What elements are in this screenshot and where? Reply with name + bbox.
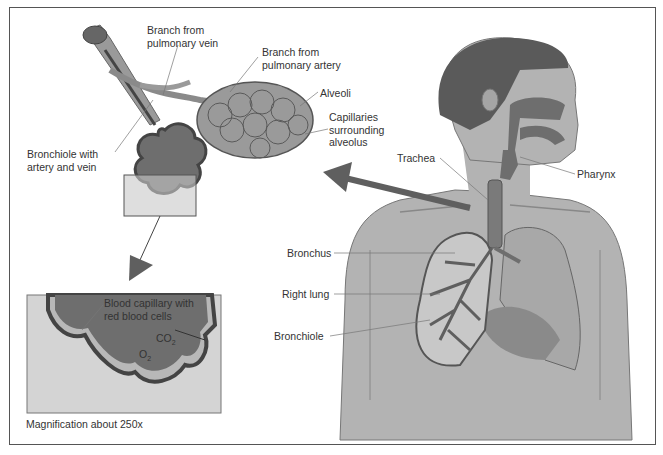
human-figure — [340, 38, 632, 440]
label-right-lung: Right lung — [282, 288, 329, 301]
label-branch-from-pulmonary-vein: Branch from pulmonary vein — [147, 24, 218, 49]
label-o2: O2 — [139, 348, 151, 366]
co2-text: CO — [156, 332, 172, 344]
o2-subscript: 2 — [147, 355, 151, 362]
label-bronchiole: Bronchiole — [274, 330, 324, 343]
label-trachea: Trachea — [397, 152, 435, 165]
label-bronchiole-with-artery-and-vein: Bronchiole with artery and vein — [27, 148, 98, 173]
label-bronchus: Bronchus — [287, 247, 331, 260]
magnification-caption: Magnification about 250x — [26, 418, 143, 431]
co2-subscript: 2 — [172, 339, 176, 346]
label-alveoli: Alveoli — [320, 87, 351, 100]
o2-text: O — [139, 348, 147, 360]
label-branch-from-pulmonary-artery: Branch from pulmonary artery — [262, 46, 341, 71]
label-blood-capillary: Blood capillary with red blood cells — [104, 297, 194, 322]
label-co2: CO2 — [156, 332, 176, 350]
label-capillaries-surrounding-alveolus: Capillaries surrounding alveolus — [329, 111, 384, 149]
label-pharynx: Pharynx — [577, 168, 616, 181]
